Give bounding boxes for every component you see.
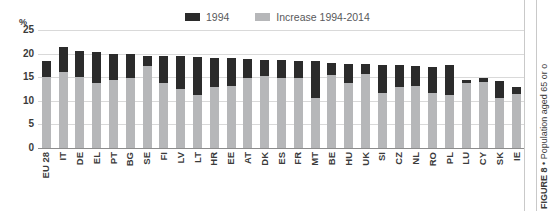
bar-segment-1994[interactable] [176, 56, 185, 89]
bar-segment-increase[interactable] [42, 77, 51, 148]
bar-segment-increase[interactable] [210, 87, 219, 148]
bar-segment-1994[interactable] [495, 81, 504, 98]
bar-segment-1994[interactable] [42, 61, 51, 77]
bar-segment-increase[interactable] [344, 83, 353, 148]
bar-segment-increase[interactable] [378, 93, 387, 148]
bar-segment-1994[interactable] [126, 54, 135, 78]
bar-segment-increase[interactable] [92, 83, 101, 148]
bar-segment-1994[interactable] [193, 57, 202, 94]
stacked-bar[interactable] [378, 65, 387, 148]
bar-segment-1994[interactable] [210, 58, 219, 87]
bar-segment-increase[interactable] [462, 83, 471, 148]
bar-segment-1994[interactable] [311, 61, 320, 98]
bar-segment-increase[interactable] [395, 87, 404, 148]
stacked-bar[interactable] [327, 63, 336, 148]
bar-segment-increase[interactable] [479, 82, 488, 148]
bar-segment-increase[interactable] [75, 77, 84, 148]
bar-slot-cz[interactable] [391, 30, 408, 148]
stacked-bar[interactable] [42, 61, 51, 148]
bar-slot-lt[interactable] [189, 30, 206, 148]
bar-segment-increase[interactable] [277, 78, 286, 148]
bar-slot-es[interactable] [273, 30, 290, 148]
bar-slot-eu-28[interactable] [38, 30, 55, 148]
bar-segment-1994[interactable] [159, 56, 168, 83]
bar-segment-1994[interactable] [243, 59, 252, 77]
bar-slot-si[interactable] [374, 30, 391, 148]
bar-segment-increase[interactable] [311, 98, 320, 148]
bar-segment-1994[interactable] [277, 60, 286, 78]
stacked-bar[interactable] [512, 87, 521, 148]
stacked-bar[interactable] [210, 58, 219, 148]
bar-segment-increase[interactable] [59, 72, 68, 148]
stacked-bar[interactable] [428, 67, 437, 148]
stacked-bar[interactable] [143, 56, 152, 149]
bar-slot-hr[interactable] [206, 30, 223, 148]
bar-segment-increase[interactable] [411, 86, 420, 148]
bar-slot-lu[interactable] [458, 30, 475, 148]
stacked-bar[interactable] [462, 80, 471, 148]
bar-segment-1994[interactable] [512, 87, 521, 95]
bar-segment-1994[interactable] [92, 52, 101, 83]
stacked-bar[interactable] [344, 64, 353, 148]
stacked-bar[interactable] [193, 57, 202, 148]
bar-slot-it[interactable] [55, 30, 72, 148]
stacked-bar[interactable] [109, 54, 118, 148]
bar-segment-increase[interactable] [428, 93, 437, 148]
bar-segment-increase[interactable] [495, 98, 504, 148]
bar-segment-1994[interactable] [260, 60, 269, 76]
bar-slot-pt[interactable] [105, 30, 122, 148]
stacked-bar[interactable] [277, 60, 286, 148]
stacked-bar[interactable] [243, 59, 252, 148]
bar-slot-hu[interactable] [340, 30, 357, 148]
stacked-bar[interactable] [411, 66, 420, 148]
bar-segment-1994[interactable] [227, 58, 236, 85]
bar-slot-uk[interactable] [357, 30, 374, 148]
bar-segment-1994[interactable] [59, 47, 68, 72]
stacked-bar[interactable] [75, 51, 84, 148]
bar-slot-dk[interactable] [256, 30, 273, 148]
stacked-bar[interactable] [92, 52, 101, 148]
bar-segment-1994[interactable] [395, 65, 404, 87]
bar-slot-be[interactable] [324, 30, 341, 148]
stacked-bar[interactable] [227, 58, 236, 148]
bar-segment-increase[interactable] [260, 76, 269, 148]
stacked-bar[interactable] [159, 56, 168, 149]
bar-slot-el[interactable] [88, 30, 105, 148]
bar-slot-pl[interactable] [441, 30, 458, 148]
bar-slot-nl[interactable] [408, 30, 425, 148]
bar-slot-ro[interactable] [424, 30, 441, 148]
stacked-bar[interactable] [479, 78, 488, 148]
stacked-bar[interactable] [59, 47, 68, 148]
bar-segment-1994[interactable] [445, 65, 454, 95]
bar-slot-fr[interactable] [290, 30, 307, 148]
bar-segment-increase[interactable] [294, 78, 303, 148]
bar-segment-1994[interactable] [361, 64, 370, 73]
bar-segment-increase[interactable] [193, 95, 202, 148]
bar-slot-ee[interactable] [223, 30, 240, 148]
bar-segment-increase[interactable] [445, 95, 454, 148]
bar-segment-increase[interactable] [512, 94, 521, 148]
bar-slot-fi[interactable] [156, 30, 173, 148]
bar-segment-increase[interactable] [159, 83, 168, 148]
bar-slot-at[interactable] [240, 30, 257, 148]
stacked-bar[interactable] [126, 54, 135, 148]
bar-segment-increase[interactable] [176, 89, 185, 148]
stacked-bar[interactable] [495, 81, 504, 148]
stacked-bar[interactable] [260, 60, 269, 148]
bar-segment-increase[interactable] [243, 78, 252, 148]
bar-slot-cy[interactable] [475, 30, 492, 148]
stacked-bar[interactable] [311, 61, 320, 148]
bar-segment-increase[interactable] [361, 74, 370, 148]
stacked-bar[interactable] [176, 56, 185, 148]
stacked-bar[interactable] [445, 65, 454, 148]
stacked-bar[interactable] [361, 64, 370, 148]
bar-segment-1994[interactable] [428, 67, 437, 93]
bar-slot-sk[interactable] [492, 30, 509, 148]
bar-slot-ie[interactable] [508, 30, 525, 148]
stacked-bar[interactable] [294, 61, 303, 148]
bar-segment-1994[interactable] [75, 51, 84, 77]
bar-segment-increase[interactable] [227, 86, 236, 148]
bar-slot-mt[interactable] [307, 30, 324, 148]
bar-segment-1994[interactable] [327, 63, 336, 75]
bar-slot-se[interactable] [139, 30, 156, 148]
